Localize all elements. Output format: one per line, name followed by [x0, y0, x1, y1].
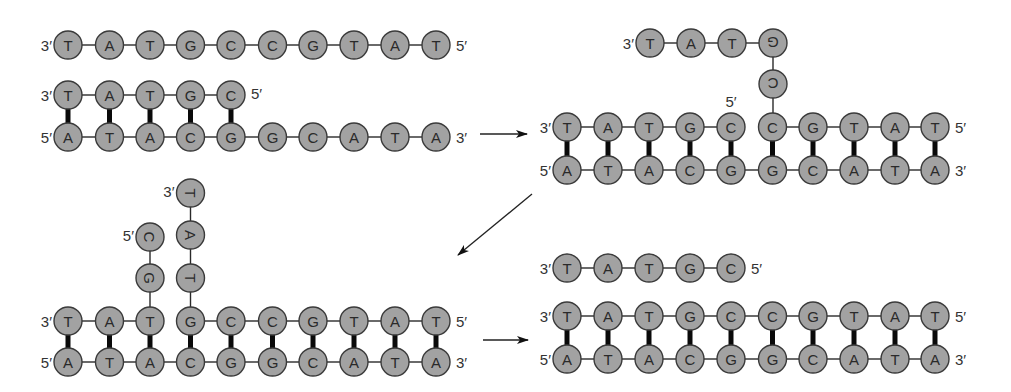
end-label-right: 5′	[456, 37, 467, 54]
nucleotide-short-strand: T	[54, 81, 82, 109]
nucleotide-top-strand: T	[635, 113, 663, 141]
base-letter: G	[307, 37, 319, 54]
nucleotide-bottom-strand: C	[299, 348, 327, 376]
base-letter: T	[603, 162, 612, 179]
nucleotide-short-strand: G	[177, 81, 205, 109]
end-label-left: 3′	[41, 37, 52, 54]
base-letter: A	[182, 230, 199, 240]
base-letter: T	[603, 351, 612, 368]
end-label-left: 5′	[540, 351, 551, 368]
nucleotide-top-strand: C	[259, 307, 287, 335]
base-letter: G	[307, 313, 319, 330]
base-letter: T	[145, 37, 154, 54]
base-letter: T	[349, 37, 358, 54]
nucleotide-bottom-strand: G	[217, 348, 245, 376]
base-letter: G	[684, 260, 696, 277]
nucleotide-bottom-strand: A	[553, 345, 581, 373]
base-letter: C	[726, 119, 737, 136]
base-letter: A	[63, 354, 73, 371]
base-letter: T	[145, 313, 154, 330]
base-letter: A	[603, 119, 613, 136]
nucleotide-bottom-strand: A	[136, 348, 164, 376]
base-letter: C	[141, 232, 158, 243]
base-letter: T	[890, 351, 899, 368]
base-letter: T	[63, 313, 72, 330]
end-label-break: 5′	[725, 93, 736, 110]
nucleotide-short-strand: A	[96, 81, 124, 109]
base-letter: A	[104, 313, 114, 330]
base-letter: A	[431, 129, 441, 146]
nucleotide-free-strand: G	[299, 31, 327, 59]
nucleotide-bottom-strand: A	[840, 156, 868, 184]
base-letter: A	[104, 37, 114, 54]
nucleotide-free-strand: C	[217, 31, 245, 59]
nucleotide-template-strand: G	[217, 123, 245, 151]
end-label-right: 3′	[456, 129, 467, 146]
nucleotide-invading-flap: T	[636, 29, 664, 57]
base-letter: G	[725, 162, 737, 179]
base-letter: G	[185, 37, 197, 54]
nucleotide-bottom-strand: C	[676, 156, 704, 184]
base-letter: T	[930, 308, 939, 325]
base-letter: A	[930, 162, 940, 179]
end-label-left: 5′	[41, 129, 52, 146]
end-label-left: 3′	[41, 87, 52, 104]
nucleotide-top-strand: G	[676, 302, 704, 330]
nucleotide-top-strand: A	[381, 307, 409, 335]
base-letter: A	[63, 129, 73, 146]
nucleotide-bottom-strand: G	[717, 156, 745, 184]
nucleotide-template-strand: T	[381, 123, 409, 151]
nucleotide-top-strand: G	[177, 307, 205, 335]
nucleotide-free-strand: A	[96, 31, 124, 59]
nucleotide-free-strand: A	[381, 31, 409, 59]
base-letter: G	[267, 354, 279, 371]
base-letter: T	[63, 87, 72, 104]
nucleotide-free-strand: G	[177, 31, 205, 59]
base-letter: C	[226, 37, 237, 54]
nucleotide-bottom-strand: C	[676, 345, 704, 373]
nucleotide-top-strand: C	[759, 302, 787, 330]
nucleotide-top-strand: A	[594, 302, 622, 330]
nucleotide-top-strand: T	[840, 302, 868, 330]
end-label-left: 3′	[540, 119, 551, 136]
end-label-left: 3′	[540, 260, 551, 277]
base-letter: G	[767, 351, 779, 368]
base-letter: C	[185, 354, 196, 371]
nucleotide-top-strand: G	[799, 113, 827, 141]
nucleotide-bottom-strand: T	[881, 156, 909, 184]
nucleotide-top-strand: T	[921, 302, 949, 330]
base-letter: T	[645, 35, 654, 52]
base-letter: T	[644, 119, 653, 136]
base-letter: G	[267, 129, 279, 146]
nucleotide-top-strand: T	[422, 307, 450, 335]
nucleotide-bottom-strand: G	[759, 156, 787, 184]
base-letter: C	[767, 75, 778, 92]
nucleotide-bottom-strand: A	[340, 348, 368, 376]
base-letter: A	[349, 129, 359, 146]
nucleotide-bottom-strand: T	[594, 156, 622, 184]
nucleotide-bottom-strand: C	[799, 156, 827, 184]
nucleotide-flap-right: T	[177, 264, 205, 292]
nucleotide-template-strand: C	[177, 123, 205, 151]
base-letter: G	[807, 119, 819, 136]
nucleotide-top-strand: C	[759, 113, 787, 141]
nucleotide-flap-left: C	[136, 223, 164, 251]
nucleotide-template-strand: T	[96, 123, 124, 151]
base-letter: A	[849, 351, 859, 368]
base-letter: A	[890, 119, 900, 136]
nucleotide-template-strand: A	[340, 123, 368, 151]
base-letter: T	[562, 308, 571, 325]
base-letter: T	[431, 37, 440, 54]
base-letter: A	[562, 162, 572, 179]
base-letter: G	[225, 129, 237, 146]
base-letter: A	[145, 129, 155, 146]
base-letter: C	[226, 87, 237, 104]
base-letter: A	[145, 354, 155, 371]
nucleotide-released-strand: T	[635, 254, 663, 282]
nucleotide-released-strand: T	[553, 254, 581, 282]
nucleotide-top-strand: T	[921, 113, 949, 141]
nucleotide-released-strand: A	[594, 254, 622, 282]
base-letter: C	[267, 313, 278, 330]
nucleotide-template-strand: C	[299, 123, 327, 151]
base-letter: A	[644, 351, 654, 368]
